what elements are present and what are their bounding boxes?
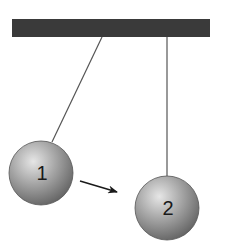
pendulum-diagram <box>0 0 233 251</box>
arrow-icon <box>80 181 117 192</box>
string-1 <box>52 37 102 142</box>
ball-2-label: 2 <box>153 198 183 218</box>
ball-1-label: 1 <box>27 163 57 183</box>
support-bar <box>12 19 210 37</box>
